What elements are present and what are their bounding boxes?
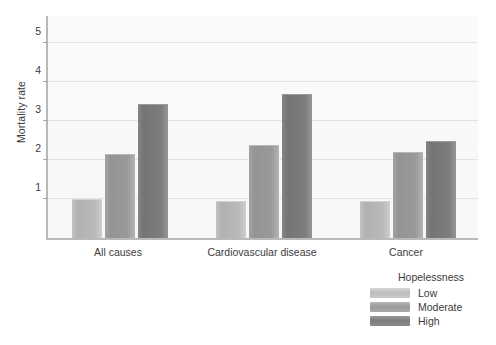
legend-item: Low (370, 287, 492, 299)
y-axis-tick-label: 1 (35, 181, 48, 193)
legend-label: Moderate (418, 301, 462, 313)
x-axis-category-label: Cardiovascular disease (207, 246, 316, 258)
plot-area: 12345 (46, 16, 478, 240)
y-axis-tick-label: 2 (35, 142, 48, 154)
y-axis-tick-label: 5 (35, 25, 48, 37)
bar-fill (216, 201, 246, 238)
x-axis-category-label: All causes (94, 246, 142, 258)
bar-fill (393, 152, 423, 238)
legend-item: Moderate (370, 301, 492, 313)
bar-fill (282, 94, 312, 238)
legend-swatch (370, 316, 410, 326)
bar (249, 145, 279, 238)
bar-fill (105, 154, 135, 238)
legend-label: High (418, 315, 440, 327)
legend-items: LowModerateHigh (370, 287, 492, 327)
bar (393, 152, 423, 238)
bar-series-layer (48, 16, 478, 238)
legend-item: High (370, 315, 492, 327)
legend-swatch (370, 302, 410, 312)
legend-title: Hopelessness (370, 271, 492, 283)
legend: Hopelessness LowModerateHigh (370, 271, 492, 329)
legend-swatch (370, 288, 410, 298)
y-axis-tick-label: 3 (35, 103, 48, 115)
mortality-rate-bar-chart: Mortality rate 12345 All causesCardiovas… (0, 0, 496, 345)
bar-fill (72, 199, 102, 238)
bar-fill (249, 145, 279, 238)
y-axis-tick-label: 4 (35, 64, 48, 76)
x-axis-category-label: Cancer (389, 246, 423, 258)
bar-fill (360, 201, 390, 238)
bar (360, 201, 390, 238)
bar (216, 201, 246, 238)
bar (282, 94, 312, 238)
y-axis-title: Mortality rate (15, 42, 27, 182)
bar (426, 141, 456, 238)
bar (138, 104, 168, 238)
legend-label: Low (418, 287, 437, 299)
bar (72, 199, 102, 238)
bar (105, 154, 135, 238)
bar-fill (426, 141, 456, 238)
bar-fill (138, 104, 168, 238)
